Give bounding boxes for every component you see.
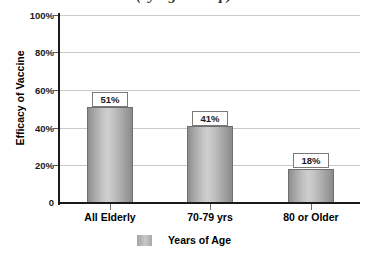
gridline-60 xyxy=(59,90,360,91)
bar-chart: (by Age Group) Efficacy of Vaccine 100% … xyxy=(0,0,368,256)
y-tick-label-0: 0 xyxy=(14,197,54,208)
x-axis-line xyxy=(58,202,360,204)
x-axis-label-all-elderly: All Elderly xyxy=(60,211,160,223)
y-axis-title: Efficacy of Vaccine xyxy=(14,13,26,183)
y-tick-label-100: 100% xyxy=(14,10,54,21)
x-axis-label-70-79-yrs: 70-79 yrs xyxy=(160,211,260,223)
y-tick-label-60: 60% xyxy=(14,85,54,96)
data-label-all-elderly: 51% xyxy=(92,92,128,107)
x-axis-label-80-or-older: 80 or Older xyxy=(261,211,361,223)
y-tick-label-40: 40% xyxy=(14,123,54,134)
plot-area xyxy=(59,15,360,203)
chart-legend: Years of Age xyxy=(0,234,368,246)
data-label-70-79-yrs: 41% xyxy=(192,111,228,126)
bar-all-elderly[interactable] xyxy=(87,107,133,203)
y-tick-label-20: 20% xyxy=(14,160,54,171)
legend-label-years-of-age: Years of Age xyxy=(168,234,231,246)
x-tick-mark-80-or-older xyxy=(311,204,312,210)
gridline-80 xyxy=(59,52,360,53)
data-label-80-or-older: 18% xyxy=(293,153,329,168)
gridline-100 xyxy=(59,15,360,16)
y-axis-line xyxy=(58,13,60,205)
y-tick-label-80: 80% xyxy=(14,47,54,58)
bar-70-79-yrs[interactable] xyxy=(187,126,233,203)
legend-swatch-years-of-age xyxy=(137,235,152,246)
x-tick-mark-all-elderly xyxy=(110,204,111,210)
bar-80-or-older[interactable] xyxy=(288,169,334,203)
chart-title: (by Age Group) xyxy=(0,0,368,4)
x-tick-mark-70-79-yrs xyxy=(210,204,211,210)
